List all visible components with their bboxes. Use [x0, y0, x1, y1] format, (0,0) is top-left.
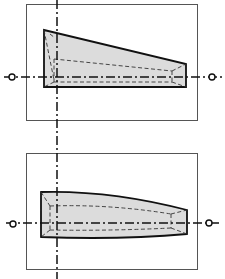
top-panel — [4, 5, 222, 121]
bottom-panel — [6, 154, 220, 270]
top-body — [44, 30, 186, 87]
diagram-canvas — [0, 0, 225, 279]
top-right-pivot-icon — [209, 74, 215, 80]
top-left-pivot-icon — [9, 74, 15, 80]
bottom-body — [41, 192, 187, 238]
bottom-left-pivot-icon — [10, 221, 16, 227]
bottom-right-pivot-icon — [206, 220, 212, 226]
